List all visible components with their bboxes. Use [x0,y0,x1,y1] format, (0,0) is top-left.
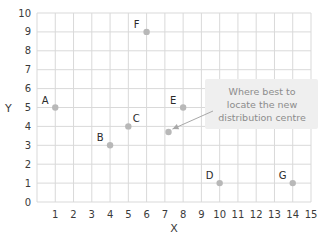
x-tick-label: 15 [305,209,318,220]
point-label-d: D [206,170,214,181]
y-tick-label: 5 [25,102,31,113]
x-tick-label: 7 [162,209,168,220]
x-tick-label: 12 [250,209,263,220]
y-axis-label: Y [4,102,12,115]
point-label-f: F [134,19,140,30]
x-axis-ticks: 123456789101112131415 [52,209,317,220]
callout-line-3: distribution centre [218,112,306,123]
x-tick-label: 8 [180,209,186,220]
x-tick-label: 2 [70,209,76,220]
scatter-chart: 123456789101112131415 012345678910 Where… [0,0,325,239]
x-tick-label: 14 [286,209,299,220]
data-point-e [180,104,186,110]
y-tick-label: 10 [18,8,31,19]
data-point-d [216,180,222,186]
x-tick-label: 13 [268,209,281,220]
y-tick-label: 6 [25,83,31,94]
x-tick-label: 1 [52,209,58,220]
y-tick-label: 8 [25,45,31,56]
data-point-g [290,180,296,186]
y-tick-label: 9 [25,26,31,37]
x-tick-label: 5 [125,209,131,220]
x-tick-label: 11 [232,209,245,220]
data-point-f [143,29,149,35]
point-label-b: B [97,132,104,143]
y-tick-label: 4 [25,121,31,132]
annotation-callout: Where best to locate the new distributio… [205,79,318,129]
y-tick-label: 0 [25,197,31,208]
x-tick-label: 4 [107,209,113,220]
data-point-b [107,142,113,148]
point-label-c: C [133,113,140,124]
callout-line-2: locate the new [227,99,298,110]
data-point-a [52,104,58,110]
point-label-e: E [170,95,176,106]
x-axis-label: X [170,222,178,235]
x-tick-label: 10 [213,209,226,220]
x-tick-label: 3 [89,209,95,220]
point-label-a: A [42,95,49,106]
y-axis-ticks: 012345678910 [18,8,31,208]
x-tick-label: 9 [198,209,204,220]
y-tick-label: 1 [25,178,31,189]
callout-line-1: Where best to [229,86,296,97]
x-tick-label: 6 [143,209,149,220]
data-point-c [125,123,131,129]
point-label-g: G [279,170,287,181]
y-tick-label: 2 [25,159,31,170]
y-tick-label: 3 [25,140,31,151]
new-centre-point [165,129,171,135]
y-tick-label: 7 [25,64,31,75]
